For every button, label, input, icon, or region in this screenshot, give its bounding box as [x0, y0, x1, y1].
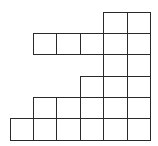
grid-cell [103, 54, 128, 77]
grid-cell [127, 76, 151, 98]
grid-cell [80, 97, 104, 119]
grid-cell [33, 118, 57, 141]
grid-cell [56, 118, 81, 141]
grid-cell [103, 12, 128, 34]
grid-cell [80, 118, 104, 141]
grid-cell [80, 76, 104, 98]
grid-cell [127, 12, 151, 34]
grid-cell [33, 97, 57, 119]
grid-cell [127, 97, 151, 119]
grid-cell [80, 33, 104, 55]
square-grid-figure [0, 0, 158, 146]
grid-cell [33, 33, 57, 55]
grid-cell [127, 118, 151, 141]
grid-cell [56, 97, 81, 119]
grid-cell [103, 76, 128, 98]
grid-cell [127, 54, 151, 77]
grid-cell [103, 118, 128, 141]
grid-cell [56, 33, 81, 55]
grid-cell [103, 97, 128, 119]
grid-cell [127, 33, 151, 55]
grid-cell [103, 33, 128, 55]
grid-cell [10, 118, 34, 141]
